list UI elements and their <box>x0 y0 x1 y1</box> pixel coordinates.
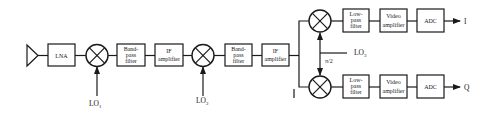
lna-label: LNA <box>55 53 68 59</box>
i-output-label: I <box>464 17 467 26</box>
iq-splitter <box>299 21 309 87</box>
ifamp2-line1: IF <box>273 48 279 54</box>
q-lowpass-filter-block: Low- pass filter <box>343 75 369 98</box>
i-vamp-line2: amplifier <box>383 22 405 28</box>
lo1-label: LO1 <box>89 99 102 109</box>
ifamp2-line2: amplifier <box>265 56 287 62</box>
antenna-icon <box>27 45 38 66</box>
if-amplifier-1-block: IF amplifier <box>155 44 183 66</box>
mixer-i-icon <box>309 10 331 32</box>
i-lowpass-filter-block: Low- pass filter <box>343 9 369 32</box>
i-adc-block: ADC <box>417 9 444 32</box>
q-lpf-line3: filter <box>350 89 362 95</box>
q-vamp-line2: amplifier <box>383 88 405 94</box>
ifamp1-line1: IF <box>166 48 172 54</box>
q-output-label: Q <box>464 83 470 92</box>
i-vamp-line1: Video <box>386 13 400 19</box>
bpf2-line3: filter <box>233 58 245 64</box>
mixer-1-icon <box>86 45 108 67</box>
bpf1-line3: filter <box>125 58 137 64</box>
lo2-label: LO2 <box>196 96 209 106</box>
bandpass-filter-1-block: Band- pass filter <box>117 44 145 66</box>
ifamp1-line2: amplifier <box>158 56 180 62</box>
if-amplifier-2-block: IF amplifier <box>262 44 289 66</box>
q-adc-label: ADC <box>424 84 437 90</box>
i-video-amplifier-block: Video amplifier <box>380 9 407 32</box>
i-lpf-line3: filter <box>350 23 362 29</box>
bandpass-filter-2-block: Band- pass filter <box>225 44 252 66</box>
i-adc-label: ADC <box>424 18 437 24</box>
mixer-q-icon <box>309 76 331 98</box>
receiver-block-diagram: LNA LO1 Band- pass filter IF amplifier L… <box>0 0 483 114</box>
q-adc-block: ADC <box>417 75 444 98</box>
phase-shift-label: π/2 <box>325 58 333 64</box>
lna-block: LNA <box>48 44 75 66</box>
q-video-amplifier-block: Video amplifier <box>380 75 407 98</box>
mixer-2-icon <box>192 45 214 67</box>
q-vamp-line1: Video <box>386 79 400 85</box>
lo3-label: LO3 <box>354 48 367 58</box>
